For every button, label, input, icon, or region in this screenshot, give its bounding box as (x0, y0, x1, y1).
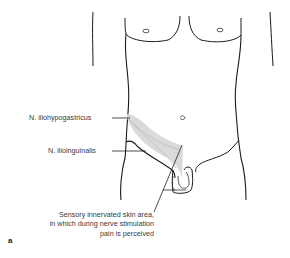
left-nipple (217, 28, 223, 32)
genital-inner (178, 172, 189, 188)
label-iliohypogastricus: N. iliohypogastricus (29, 114, 91, 121)
right-nipple (143, 29, 149, 33)
panel-label: a (8, 237, 12, 245)
label-sensory-line1: Sensory innervated skin area, (14, 210, 154, 219)
left-arm-outline (270, 12, 273, 66)
label-sensory-line2: in which during nerve stimulation (14, 219, 154, 228)
sensory-skin-area (127, 114, 183, 178)
label-sensory-area: Sensory innervated skin area, in which d… (14, 210, 154, 238)
label-sensory-line3: pain is perceived (14, 229, 154, 238)
left-chest-outline (189, 16, 241, 42)
left-torso-outline (235, 35, 246, 200)
genital-outline (172, 167, 192, 193)
right-chest-outline (125, 16, 180, 42)
navel (180, 116, 185, 120)
label-ilioinguinalis: N. ilioinguinalis (48, 147, 96, 154)
left-inguinal-outline (196, 140, 239, 172)
